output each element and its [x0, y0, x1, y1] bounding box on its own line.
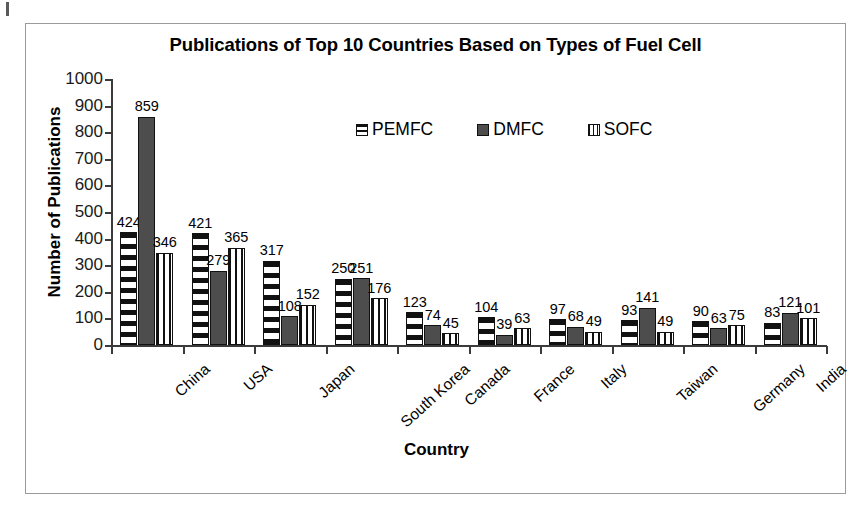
- bar-value-label: 75: [718, 308, 756, 323]
- y-tick-label: 600: [37, 175, 103, 195]
- bar-value-label: 346: [146, 235, 184, 250]
- bar-dmfc-china: [138, 117, 155, 345]
- bar-value-label: 49: [646, 314, 684, 329]
- x-axis-category-labels: ChinaUSAJapanSouth KoreaCanadaFranceItal…: [26, 356, 847, 436]
- bar-group: 424859346: [111, 79, 183, 345]
- legend-item-dmfc: DMFC: [477, 119, 544, 140]
- bar-group: 83121101: [755, 79, 827, 345]
- legend-item-sofc: SOFC: [588, 119, 653, 140]
- x-category-label: Germany: [749, 360, 808, 416]
- bar-sofc-france: [514, 328, 531, 345]
- x-tick-mark: [326, 346, 328, 354]
- x-axis-tick-marks: [111, 346, 827, 355]
- y-tick-label: 100: [37, 308, 103, 328]
- bar-value-label: 63: [503, 311, 541, 326]
- y-tick-label: 500: [37, 202, 103, 222]
- legend-label-dmfc: DMFC: [493, 119, 544, 140]
- bar-group: 906375: [683, 79, 755, 345]
- x-category-label: China: [171, 360, 213, 400]
- bar-value-label: 365: [217, 230, 255, 245]
- x-tick-mark: [755, 346, 757, 354]
- bar-pemfc-south-korea: [335, 279, 352, 346]
- legend-label-sofc: SOFC: [604, 119, 653, 140]
- y-tick-label: 700: [37, 149, 103, 169]
- x-tick-mark: [683, 346, 685, 354]
- chart-figure-frame: Publications of Top 10 Countries Based o…: [25, 23, 846, 494]
- bar-sofc-japan: [299, 305, 316, 345]
- bar-sofc-italy: [585, 332, 602, 345]
- bar-dmfc-usa: [210, 271, 227, 345]
- bar-dmfc-italy: [567, 327, 584, 345]
- y-tick-label: 400: [37, 229, 103, 249]
- x-tick-mark: [254, 346, 256, 354]
- legend-item-pemfc: PEMFC: [356, 119, 433, 140]
- legend-swatch-sofc-icon: [588, 124, 600, 136]
- x-category-label: USA: [240, 360, 276, 395]
- x-category-label: Japan: [315, 360, 358, 402]
- bar-sofc-india: [800, 318, 817, 345]
- x-tick-mark: [469, 346, 471, 354]
- bar-sofc-south-korea: [371, 298, 388, 345]
- bar-sofc-canada: [442, 333, 459, 345]
- y-tick-label: 0: [37, 335, 103, 355]
- bar-value-label: 141: [628, 290, 666, 305]
- bar-pemfc-india: [764, 323, 781, 345]
- bar-sofc-usa: [228, 248, 245, 345]
- x-category-label: India: [813, 360, 850, 396]
- bar-value-label: 317: [253, 243, 291, 258]
- y-tick-label: 200: [37, 282, 103, 302]
- chart-legend: PEMFC DMFC SOFC: [356, 119, 652, 140]
- bar-pemfc-china: [120, 232, 137, 345]
- x-category-label: Taiwan: [674, 360, 722, 406]
- bar-group: 317108152: [254, 79, 326, 345]
- plot-wrapper: Number of Publications Country 010020030…: [26, 24, 847, 495]
- bar-sofc-china: [156, 253, 173, 345]
- bar-value-label: 859: [128, 99, 166, 114]
- bar-value-label: 49: [575, 314, 613, 329]
- bar-value-label: 104: [467, 300, 505, 315]
- y-tick-label: 300: [37, 255, 103, 275]
- x-tick-mark: [826, 346, 828, 354]
- x-category-label: Italy: [597, 360, 630, 392]
- y-tick-label: 1000: [37, 69, 103, 89]
- bar-pemfc-usa: [192, 233, 209, 345]
- bar-group: 421279365: [183, 79, 255, 345]
- legend-swatch-pemfc-icon: [356, 124, 368, 136]
- y-tick-label: 800: [37, 122, 103, 142]
- x-tick-mark: [397, 346, 399, 354]
- bar-dmfc-india: [782, 313, 799, 345]
- y-axis-tick-labels: 01002003004005006007008009001000: [31, 79, 103, 346]
- bar-value-label: 152: [289, 287, 327, 302]
- x-axis-title: Country: [26, 440, 847, 460]
- bar-dmfc-japan: [281, 316, 298, 345]
- bar-value-label: 251: [342, 261, 380, 276]
- x-tick-mark: [111, 346, 113, 354]
- bar-value-label: 101: [789, 301, 827, 316]
- bar-value-label: 45: [432, 316, 470, 331]
- bar-dmfc-germany: [710, 328, 727, 345]
- bar-dmfc-france: [496, 335, 513, 345]
- bar-pemfc-taiwan: [621, 320, 638, 345]
- bar-value-label: 176: [360, 281, 398, 296]
- legend-swatch-dmfc-icon: [477, 124, 489, 136]
- bar-sofc-taiwan: [657, 332, 674, 345]
- x-tick-mark: [612, 346, 614, 354]
- page-corner-mark: [6, 2, 9, 16]
- bar-sofc-germany: [728, 325, 745, 345]
- x-tick-mark: [540, 346, 542, 354]
- x-category-label: France: [531, 360, 579, 406]
- legend-label-pemfc: PEMFC: [372, 119, 433, 140]
- y-tick-label: 900: [37, 96, 103, 116]
- bar-value-label: 421: [181, 216, 219, 231]
- x-tick-mark: [183, 346, 185, 354]
